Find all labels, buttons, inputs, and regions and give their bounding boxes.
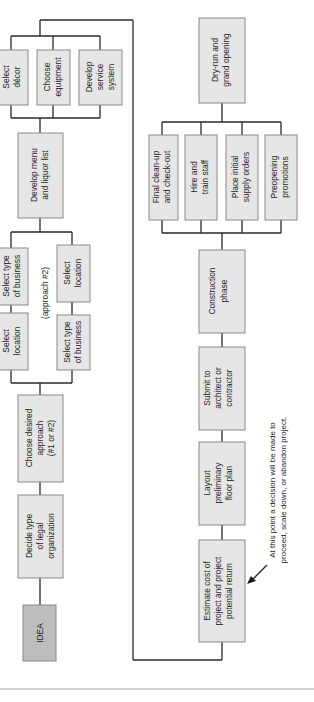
svg-text:Submit to: Submit to <box>202 370 212 406</box>
node-grand-opening: Dry-run and grand opening <box>199 18 245 103</box>
svg-text:architect or: architect or <box>213 367 223 409</box>
node-legal-organization: Decide type of legal organization <box>18 495 63 578</box>
node-estimate-cost: Estimate cost of project and project pot… <box>199 540 245 642</box>
node-approach1-location: Select location <box>0 313 28 370</box>
svg-text:Preopening: Preopening <box>269 155 279 198</box>
node-develop-menu: Develop menu and liquor list <box>18 133 63 218</box>
node-preopening-promotions: Preopening promotions <box>265 135 297 220</box>
label-approach-2: (approach #2) <box>40 267 50 319</box>
svg-text:location: location <box>73 258 83 287</box>
node-construction-phase: Construction phase <box>199 250 245 333</box>
svg-text:Decide type: Decide type <box>24 514 34 559</box>
svg-text:phase: phase <box>219 279 229 302</box>
svg-text:system: system <box>106 64 116 91</box>
svg-text:of business: of business <box>73 321 83 363</box>
svg-text:Select type: Select type <box>1 255 11 297</box>
svg-text:contractor: contractor <box>224 369 234 406</box>
svg-text:grand opening: grand opening <box>221 33 231 87</box>
svg-text:potential return: potential return <box>224 563 234 619</box>
svg-text:Dry-run and: Dry-run and <box>210 38 220 83</box>
svg-text:and liquor list: and liquor list <box>40 150 50 200</box>
svg-text:promotions: promotions <box>280 156 290 197</box>
node-approach2-business: Select type of business <box>57 315 90 370</box>
svg-text:Develop menu: Develop menu <box>29 148 39 202</box>
svg-text:At this point a decision will: At this point a decision will be made to <box>268 422 277 558</box>
node-hire-staff: Hire and train staff <box>185 135 217 220</box>
node-service-system: Develop service system <box>79 50 122 105</box>
svg-text:supply orders: supply orders <box>241 152 251 202</box>
node-layout-floor-plan: Layout preliminary floor plan <box>199 442 245 525</box>
decision-annotation: At this point a decision will be made to… <box>247 417 288 584</box>
node-idea: IDEA <box>23 605 56 661</box>
node-final-cleanup: Final clean-up and check-out <box>149 135 178 220</box>
svg-text:Select: Select <box>62 261 72 285</box>
svg-text:Select: Select <box>1 329 11 353</box>
svg-text:proceed, scale down, or abando: proceed, scale down, or abandon project. <box>279 417 288 564</box>
svg-text:Construction: Construction <box>207 267 217 314</box>
svg-text:Develop: Develop <box>84 61 94 92</box>
node-submit-architect: Submit to architect or contractor <box>199 347 245 430</box>
svg-text:preliminary: preliminary <box>213 462 223 504</box>
svg-text:project and project: project and project <box>213 556 223 626</box>
node-select-decor: Select décor <box>0 50 28 105</box>
svg-text:and check-out: and check-out <box>162 150 172 203</box>
restaurant-development-flowchart: IDEA Decide type of legal organization C… <box>0 0 314 702</box>
node-approach2-location: Select location <box>57 245 90 302</box>
svg-text:equipment: equipment <box>53 57 63 97</box>
svg-text:(#1 or #2): (#1 or #2) <box>46 420 56 457</box>
svg-text:Hire and: Hire and <box>189 161 199 193</box>
svg-text:floor plan: floor plan <box>224 465 234 500</box>
node-supply-orders: Place initial supply orders <box>226 135 258 220</box>
svg-text:organization: organization <box>46 513 56 559</box>
svg-text:of legal: of legal <box>35 522 45 549</box>
svg-text:service: service <box>95 63 105 90</box>
svg-text:Estimate cost of: Estimate cost of <box>202 561 212 621</box>
svg-text:Final clean-up: Final clean-up <box>151 150 161 203</box>
node-choose-equipment: Choose equipment <box>37 50 70 105</box>
node-choose-approach: Choose desired approach (#1 or #2) <box>18 395 63 482</box>
svg-text:Choose desired: Choose desired <box>24 408 34 467</box>
svg-text:of business: of business <box>12 255 22 297</box>
svg-text:Choose: Choose <box>42 62 52 91</box>
svg-text:décor: décor <box>12 66 22 87</box>
svg-text:location: location <box>12 326 22 355</box>
annotation-arrow-icon <box>252 565 267 580</box>
svg-text:Select: Select <box>1 65 11 89</box>
node-approach1-business: Select type of business <box>0 248 28 305</box>
svg-text:IDEA: IDEA <box>35 623 45 643</box>
svg-text:Place initial: Place initial <box>230 156 240 199</box>
svg-text:approach: approach <box>35 420 45 455</box>
svg-text:Layout: Layout <box>202 470 212 496</box>
svg-text:Select type: Select type <box>62 321 72 363</box>
svg-text:train staff: train staff <box>200 159 210 194</box>
